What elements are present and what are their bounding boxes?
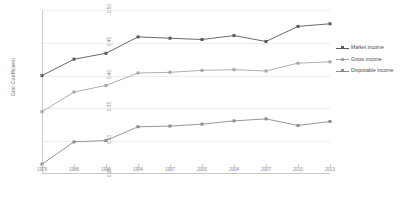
data-point-marker: [233, 119, 236, 122]
y-axis-title: Gini Coefficient: [10, 42, 16, 112]
data-point-marker: [297, 25, 300, 28]
gini-coefficient-line-chart: Gini Coefficient 0.500.450.400.350.300.2…: [0, 0, 414, 198]
legend-label: Disposable income: [351, 67, 414, 74]
x-axis-tick-label: 1997: [155, 167, 185, 172]
y-axis-tick-label: 0.30: [98, 137, 120, 142]
data-point-marker: [137, 125, 140, 128]
data-point-marker: [41, 74, 44, 77]
data-point-marker: [73, 140, 76, 143]
legend-swatch-icon: [336, 45, 349, 52]
legend-label: Gross income: [351, 56, 414, 63]
data-point-marker: [201, 69, 204, 72]
series-layer: [42, 10, 330, 174]
legend-item[interactable]: Market income: [336, 44, 414, 52]
series-line: [42, 24, 330, 76]
legend-label: Market income: [351, 44, 414, 51]
series-line: [42, 62, 330, 112]
data-point-marker: [329, 120, 332, 123]
x-axis-tick-label: 2010: [283, 167, 313, 172]
data-point-marker: [169, 125, 172, 128]
data-point-marker: [137, 71, 140, 74]
data-point-marker: [105, 52, 108, 55]
data-point-marker: [329, 60, 332, 63]
legend-swatch-icon: [336, 56, 349, 63]
data-point-marker: [329, 22, 332, 25]
data-point-marker: [265, 40, 268, 43]
y-axis-tick-label: 0.50: [98, 6, 120, 11]
data-point-marker: [137, 35, 140, 38]
series-line: [42, 119, 330, 164]
x-axis-tick-label: 2000: [187, 167, 217, 172]
x-axis-tick-label: 2004: [219, 167, 249, 172]
x-axis-tick-label: 1979: [27, 167, 57, 172]
data-point-marker: [105, 84, 108, 87]
x-axis-tick-label: 1994: [123, 167, 153, 172]
data-point-marker: [297, 124, 300, 127]
series-gross-income: [41, 60, 332, 113]
data-point-marker: [297, 62, 300, 65]
x-axis-tick-label: 2013: [315, 167, 345, 172]
y-axis-tick-label: 0.35: [98, 104, 120, 109]
series-market-income: [41, 22, 332, 77]
data-point-marker: [233, 34, 236, 37]
data-point-marker: [265, 70, 268, 73]
x-axis-tick-label: 2007: [251, 167, 281, 172]
data-point-marker: [233, 68, 236, 71]
series-disposable-income: [41, 117, 332, 165]
x-axis-tick-label: 1991: [91, 167, 121, 172]
chart-legend: Market incomeGross incomeDisposable inco…: [336, 44, 414, 79]
y-axis-tick-label: 0.45: [98, 39, 120, 44]
x-axis-tick-label: 1986: [59, 167, 89, 172]
data-point-marker: [169, 71, 172, 74]
legend-item[interactable]: Disposable income: [336, 67, 414, 75]
data-point-marker: [201, 123, 204, 126]
data-point-marker: [73, 91, 76, 94]
y-axis-tick-label: 0.40: [98, 72, 120, 77]
data-point-marker: [73, 58, 76, 61]
data-point-marker: [41, 110, 44, 113]
data-point-marker: [169, 37, 172, 40]
data-point-marker: [201, 38, 204, 41]
legend-swatch-icon: [336, 68, 349, 75]
legend-item[interactable]: Gross income: [336, 56, 414, 64]
data-point-marker: [265, 117, 268, 120]
